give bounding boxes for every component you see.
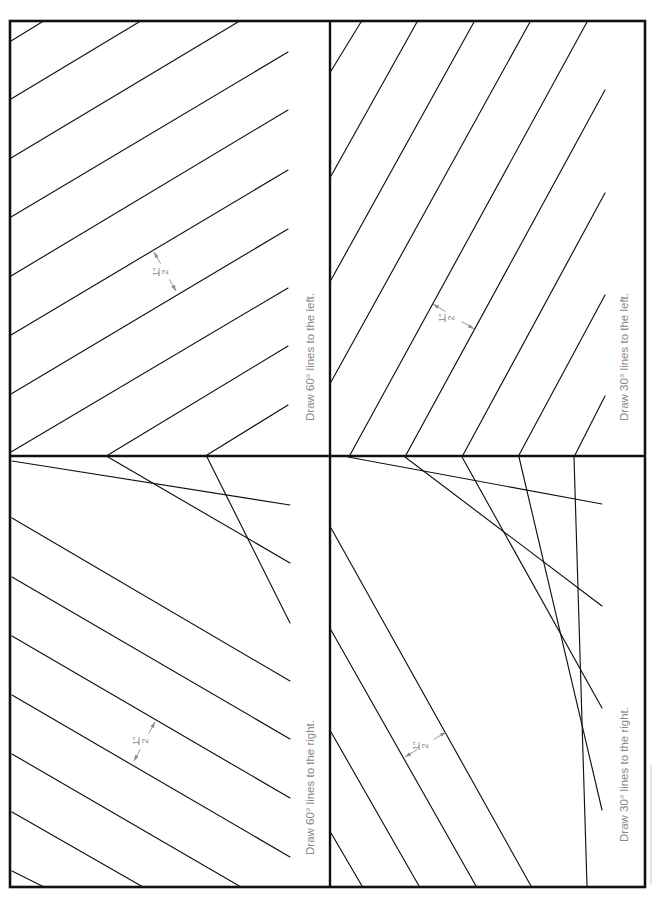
hatch-line <box>12 636 290 798</box>
arrowhead-icon <box>154 252 159 258</box>
hatch-line <box>350 22 587 455</box>
quadrant-top-right: 1"2 Draw 30° lines to the left. <box>331 22 630 455</box>
hatch-line <box>331 22 417 176</box>
instruction-label: Draw 60° lines to the left. <box>304 293 316 421</box>
arrowhead-icon <box>150 722 155 728</box>
hatch-line <box>575 396 605 455</box>
arrowhead-icon <box>468 324 474 329</box>
hatch-line <box>12 577 290 739</box>
arrowhead-icon <box>171 285 176 291</box>
dimension-half-inch: 1"2 <box>433 304 474 329</box>
hatch-line <box>331 630 476 886</box>
hatch-line <box>331 833 362 886</box>
quadrant-bottom-right: 1"2 Draw 30° lines to the right. <box>331 457 630 886</box>
hatch-line <box>519 295 605 455</box>
hatch-line <box>11 22 139 99</box>
instruction-label: Draw 60° lines to the right. <box>304 720 316 855</box>
hatch-line <box>331 528 531 886</box>
hatch-line <box>519 457 602 810</box>
arrowhead-icon <box>440 732 446 737</box>
hatch-line <box>11 22 42 41</box>
instruction-label: Draw 30° lines to the left. <box>618 293 630 421</box>
hatch-line <box>12 461 290 505</box>
dimension-text: 1"2 <box>436 314 456 323</box>
hatch-line <box>12 754 241 887</box>
hatch-line <box>331 732 419 886</box>
hatch-line <box>108 457 290 563</box>
dimension-half-inch: 1"2 <box>405 732 446 757</box>
hatch-line <box>331 22 474 280</box>
quadrant-top-left: 1"2 Draw 60° lines to the left. <box>11 22 316 455</box>
arrowhead-icon <box>405 752 411 757</box>
hatch-line <box>207 457 290 623</box>
arrowhead-icon <box>134 755 139 761</box>
hatch-line <box>12 871 44 887</box>
dimension-text: 1"2 <box>410 742 430 751</box>
hatch-lines <box>331 457 602 886</box>
worksheet-page: 1"2 Draw 60° lines to the left. 1"2 Draw… <box>0 0 659 898</box>
hatch-line <box>12 518 290 681</box>
dimension-text: 1"2 <box>150 268 170 277</box>
hatch-line <box>331 22 530 382</box>
outer-frame <box>10 21 645 887</box>
quadrant-bottom-left: 1"2 Draw 60° lines to the right. <box>12 457 316 887</box>
hatch-line <box>12 812 143 887</box>
hatch-lines <box>11 22 288 455</box>
hatch-line <box>331 22 361 71</box>
hatch-line <box>463 193 605 455</box>
hatch-line <box>207 405 288 455</box>
hatch-line <box>574 457 587 886</box>
hatch-line <box>406 90 605 455</box>
arrowhead-icon <box>433 304 439 309</box>
hatch-line <box>108 346 288 455</box>
dimension-text: 1"2 <box>130 737 150 746</box>
hatch-line <box>11 170 288 335</box>
hatch-line <box>11 22 238 158</box>
hatch-lines <box>331 22 605 455</box>
hatch-line <box>12 695 290 857</box>
dimension-half-inch: 1"2 <box>130 722 155 761</box>
hatch-line <box>11 229 288 394</box>
hatch-lines <box>12 457 290 887</box>
instruction-label: Draw 30° lines to the right. <box>618 707 630 842</box>
hatch-line <box>11 288 288 452</box>
dimension-half-inch: 1"2 <box>150 252 176 291</box>
